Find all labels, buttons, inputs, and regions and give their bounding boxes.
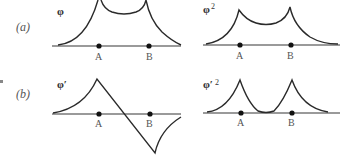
phi-squared-curve: [206, 7, 338, 44]
function-superscript: 2: [211, 2, 215, 11]
point-b-dot: [146, 43, 151, 48]
row-label-b: (b): [16, 87, 30, 101]
panel-b-phi-prime: φ′ A B: [52, 78, 181, 153]
margin-mark: [0, 80, 3, 83]
panel-b-phi-prime-squared: φ′ 2 A B: [203, 78, 340, 128]
phi-curve: [58, 0, 181, 45]
row-label-a: (a): [16, 20, 30, 34]
point-a-dot: [237, 42, 242, 47]
point-a-label: A: [95, 118, 103, 129]
function-superscript: 2: [215, 78, 219, 87]
function-label: φ: [203, 3, 210, 15]
point-a-dot: [96, 111, 101, 116]
phi-prime-curve: [53, 79, 181, 153]
point-b-dot: [147, 111, 152, 116]
point-a-dot: [96, 43, 101, 48]
phi-prime-squared-curve: [207, 80, 328, 113]
panel-a-phi-squared: φ 2 A B: [203, 2, 340, 61]
point-a-label: A: [237, 117, 245, 128]
function-label: φ′: [203, 78, 213, 90]
point-b-label: B: [288, 117, 295, 128]
point-b-dot: [288, 42, 293, 47]
function-label: φ: [57, 5, 64, 17]
point-b-dot: [289, 110, 294, 115]
point-b-label: B: [146, 118, 153, 129]
point-a-label: A: [95, 51, 103, 62]
point-a-dot: [238, 110, 243, 115]
point-b-label: B: [146, 51, 153, 62]
function-label: φ′: [57, 78, 67, 90]
point-a-label: A: [236, 50, 244, 61]
panel-a-phi: φ A B: [52, 0, 181, 62]
wavefunction-diagram: (a) (b) φ A B φ 2 A B φ′ A B φ′ 2: [0, 0, 362, 159]
point-b-label: B: [287, 50, 294, 61]
